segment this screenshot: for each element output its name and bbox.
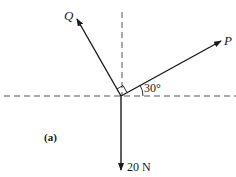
angle-label: 30° xyxy=(144,81,161,95)
angle-arc-icon xyxy=(140,85,143,96)
force-q-arrow xyxy=(77,19,121,96)
weight-label: 20 N xyxy=(127,160,151,174)
force-p-label: P xyxy=(223,33,232,48)
force-diagram: Q P 30° (a) 20 N xyxy=(0,0,236,177)
part-label: (a) xyxy=(44,131,57,144)
force-p-arrow xyxy=(121,41,221,96)
force-q-label: Q xyxy=(64,8,74,23)
